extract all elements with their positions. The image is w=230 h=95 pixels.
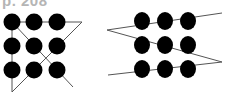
dot xyxy=(180,36,196,54)
dot xyxy=(49,14,66,31)
puzzle-left xyxy=(4,14,83,93)
puzzle-right xyxy=(107,12,222,78)
nine-dots-diagram xyxy=(0,0,230,95)
dot xyxy=(134,60,150,78)
dot xyxy=(26,14,43,31)
dot xyxy=(157,60,173,78)
dot xyxy=(26,38,43,55)
dot xyxy=(134,12,150,30)
dot xyxy=(26,62,43,79)
dot xyxy=(157,36,173,54)
dot xyxy=(180,12,196,30)
dot xyxy=(157,12,173,30)
dot xyxy=(4,62,21,79)
line-left-4 xyxy=(12,22,73,87)
dot xyxy=(4,38,21,55)
dot xyxy=(4,14,21,31)
dot xyxy=(134,36,150,54)
dot xyxy=(180,60,196,78)
dot xyxy=(49,38,66,55)
dot xyxy=(49,62,66,79)
